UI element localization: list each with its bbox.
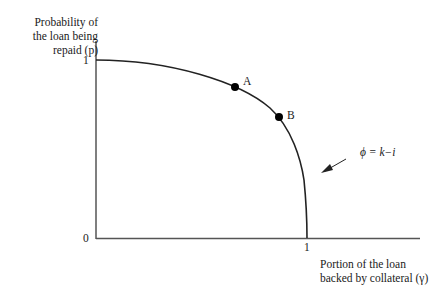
y-axis-label: Probability of the loan being repaid (p) [28,15,98,57]
y-label-line-2: the loan being [28,29,98,43]
point-a [231,83,239,91]
x-axis-label: Portion of the loan backed by collateral… [320,257,428,285]
point-a-label: A [243,74,251,88]
x-label-line-2: backed by collateral (γ) [320,271,428,285]
frontier-curve [96,60,307,238]
y-tick-0: 0 [83,231,89,245]
y-label-line-1: Probability of [28,15,98,29]
y-tick-1: 1 [83,53,89,67]
curve-label: ϕ = k−i [360,145,396,159]
arrow-head-icon [321,164,333,173]
x-tick-1: 1 [304,240,310,254]
x-label-line-1: Portion of the loan [320,257,428,271]
point-b-label: B [287,108,295,122]
point-b [275,113,283,121]
